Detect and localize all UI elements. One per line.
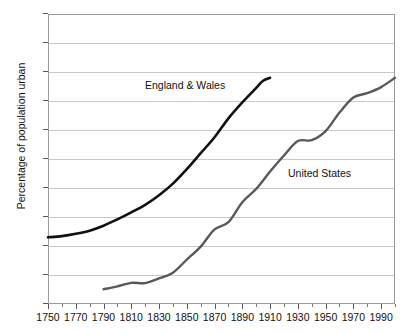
y-axis-tick — [43, 245, 48, 246]
x-axis-tick — [270, 304, 271, 309]
x-axis-minor-tick — [228, 304, 229, 307]
x-axis-minor-tick — [284, 304, 285, 307]
gridline — [49, 246, 394, 247]
y-axis-tick — [43, 274, 48, 275]
x-axis-minor-tick — [117, 304, 118, 307]
x-axis-minor-tick — [201, 304, 202, 307]
y-axis-tick — [43, 100, 48, 101]
x-axis-tick — [215, 304, 216, 309]
x-axis-tick — [48, 304, 49, 309]
x-axis-minor-tick — [256, 304, 257, 307]
x-axis-tick — [353, 304, 354, 309]
y-axis-tick — [43, 158, 48, 159]
x-axis-tick — [76, 304, 77, 309]
x-axis-tick — [242, 304, 243, 309]
plot-area — [48, 14, 395, 304]
gridline — [49, 188, 394, 189]
gridline — [49, 43, 394, 44]
x-axis-tick — [187, 304, 188, 309]
gridline — [49, 101, 394, 102]
y-axis-title: Percentage of population urban — [15, 41, 27, 231]
x-axis-tick — [104, 304, 105, 309]
y-axis-tick — [43, 216, 48, 217]
x-axis-tick — [131, 304, 132, 309]
series-annotation-united-states: United States — [288, 167, 351, 179]
x-axis-tick — [326, 304, 327, 309]
y-axis-tick — [43, 187, 48, 188]
x-axis-tick-label: 1990 — [361, 312, 401, 323]
x-axis-minor-tick — [312, 304, 313, 307]
x-axis-tick — [381, 304, 382, 309]
x-axis-minor-tick — [62, 304, 63, 307]
x-axis-minor-tick — [145, 304, 146, 307]
gridline — [49, 130, 394, 131]
y-axis-tick — [43, 42, 48, 43]
gridline — [49, 217, 394, 218]
series-annotation-england-wales: England & Wales — [145, 79, 225, 91]
x-axis-minor-tick — [339, 304, 340, 307]
gridline — [49, 275, 394, 276]
x-axis-tick — [159, 304, 160, 309]
gridline — [49, 72, 394, 73]
y-axis-tick — [43, 13, 48, 14]
x-axis-minor-tick — [173, 304, 174, 307]
gridline — [49, 159, 394, 160]
y-axis-tick — [43, 71, 48, 72]
x-axis-minor-tick — [367, 304, 368, 307]
x-axis-tick — [298, 304, 299, 309]
urbanization-line-chart: Percentage of population urban 010203040… — [0, 0, 409, 334]
x-axis-minor-tick — [395, 304, 396, 307]
x-axis-minor-tick — [90, 304, 91, 307]
y-axis-tick — [43, 129, 48, 130]
